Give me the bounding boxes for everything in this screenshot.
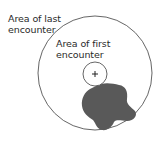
label-first-line1: Area of first: [56, 38, 110, 49]
label-last-line2: encounter: [8, 24, 61, 35]
shaded-region-blob: [82, 83, 136, 130]
label-first-line2: encounter: [56, 49, 110, 60]
label-area-of-first-encounter: Area of first encounter: [56, 38, 110, 60]
label-last-line1: Area of last: [8, 13, 61, 24]
label-area-of-last-encounter: Area of last encounter: [8, 13, 61, 35]
